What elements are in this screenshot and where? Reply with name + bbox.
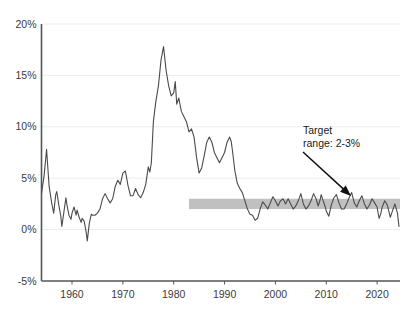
annotation-line-1: Target [303, 124, 332, 136]
x-tick-label: 1980 [162, 288, 186, 300]
x-tick-label: 2020 [365, 288, 389, 300]
annotation-arrow-shaft [303, 152, 344, 190]
y-tick-label: 10% [15, 120, 36, 132]
x-tick-label: 1990 [213, 288, 237, 300]
x-tick-label: 2000 [264, 288, 288, 300]
y-tick-label: -5% [18, 275, 37, 287]
axes [42, 24, 401, 281]
y-tick-label: 20% [15, 18, 36, 30]
inflation-chart: -5%0%5%10%15%20%196019701980199020002010… [0, 0, 414, 312]
y-tick-label: 0% [21, 223, 36, 235]
x-tick-labels: 1960197019801990200020102020 [60, 281, 389, 300]
y-tick-labels: -5%0%5%10%15%20% [15, 18, 36, 287]
x-tick-label: 1970 [111, 288, 135, 300]
x-tick-label: 1960 [60, 288, 84, 300]
annotation-group: Targetrange: 2-3% [303, 124, 360, 196]
y-tick-label: 15% [15, 69, 36, 81]
x-tick-label: 2010 [315, 288, 339, 300]
annotation-line-2: range: 2-3% [303, 137, 360, 149]
chart-canvas: -5%0%5%10%15%20%196019701980199020002010… [0, 0, 414, 312]
y-tick-label: 5% [21, 172, 36, 184]
